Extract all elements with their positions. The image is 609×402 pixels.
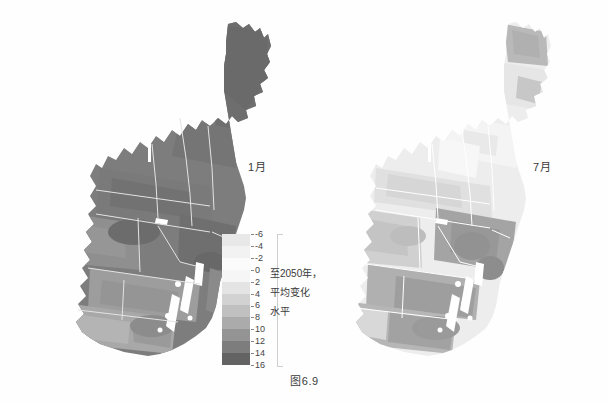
tick-dash-3 [251,270,254,271]
tick-dash-5 [251,294,254,295]
colorbar-band-8 [222,329,250,341]
tick-value-5: 4 [255,289,260,299]
tick-dash-9 [251,341,254,342]
colorbar-tick-9: 12 [251,337,265,346]
colorbar-band-9 [222,341,250,353]
tick-value-8: 10 [255,324,265,334]
tick-value-1: -4 [255,241,263,251]
tick-value-7: 8 [255,312,260,322]
colorbar [222,234,250,365]
colorbar-tick-11: 16 [251,361,265,370]
colorbar-band-4 [222,282,250,294]
july-choropleth-map [340,18,570,368]
colorbar-tick-4: 2 [251,278,260,287]
legend-text-line-3: 水平 [270,302,350,321]
tick-dash-7 [251,317,254,318]
colorbar-tick-5: 4 [251,290,260,299]
legend-caption-text: 至2050年， 平均变化 水平 [270,264,350,321]
legend-text-line-1: 至2050年， [270,264,350,283]
tick-dash-10 [251,353,254,354]
tick-dash-2 [251,258,254,259]
colorbar-band-7 [222,317,250,329]
colorbar-band-6 [222,305,250,317]
january-month-label: 1月 [248,158,266,174]
tick-dash-6 [251,306,254,307]
tick-value-3: 0 [255,265,260,275]
colorbar-band-5 [222,294,250,306]
tick-dash-11 [251,365,254,366]
tick-value-4: 2 [255,277,260,287]
tick-value-10: 14 [255,348,265,358]
colorbar-tick-6: 6 [251,301,260,310]
tick-dash-0 [251,234,254,235]
tick-value-9: 12 [255,336,265,346]
colorbar-tick-3: 0 [251,266,260,275]
colorbar-tick-10: 14 [251,349,265,358]
tick-value-2: -2 [255,253,263,263]
colorbar-tick-0: -6 [251,230,263,239]
tick-dash-4 [251,282,254,283]
july-month-label: 7月 [533,158,551,174]
figure-caption: 图6.9 [0,372,609,388]
july-map-panel: 7月 [340,18,570,368]
legend: -6-4-20246810121416 至2050年， 平均变化 水平 [222,232,342,372]
colorbar-band-0 [222,234,250,246]
colorbar-band-3 [222,270,250,282]
colorbar-band-1 [222,246,250,258]
colorbar-band-2 [222,258,250,270]
tick-value-11: 16 [255,360,265,370]
tick-value-6: 6 [255,300,260,310]
colorbar-tick-1: -4 [251,242,263,251]
tick-dash-1 [251,246,254,247]
legend-text-line-2: 平均变化 [270,283,350,302]
tick-value-0: -6 [255,229,263,239]
colorbar-tick-2: -2 [251,254,263,263]
colorbar-band-10 [222,353,250,365]
tick-dash-8 [251,329,254,330]
colorbar-tick-8: 10 [251,325,265,334]
colorbar-tick-7: 8 [251,313,260,322]
figure-6-9: 1月 [0,0,609,402]
